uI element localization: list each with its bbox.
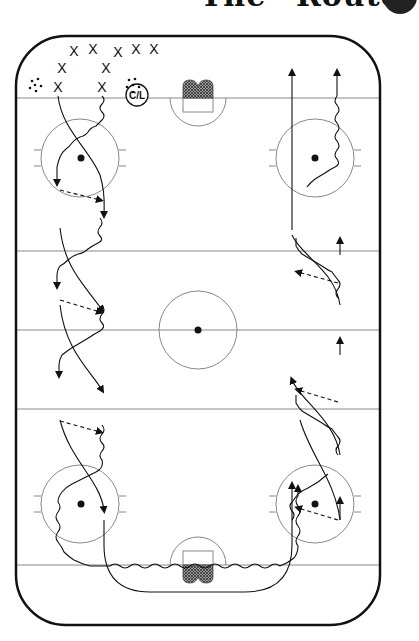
- puck-pile-icon: [29, 78, 43, 93]
- svg-text:X: X: [101, 60, 111, 76]
- svg-text:X: X: [131, 41, 141, 57]
- crease-box-top: [183, 98, 213, 112]
- faceoff-dots: [78, 155, 319, 508]
- svg-text:C/L: C/L: [129, 90, 145, 101]
- svg-text:X: X: [53, 79, 63, 95]
- svg-text:X: X: [149, 41, 159, 57]
- coach-marker: C/L: [126, 84, 148, 106]
- svg-text:X: X: [88, 41, 98, 57]
- svg-text:X: X: [97, 79, 107, 95]
- left-skating-paths: [56, 96, 300, 592]
- net-icon: [183, 80, 213, 98]
- svg-text:X: X: [57, 60, 67, 76]
- svg-text:X: X: [69, 43, 79, 59]
- crease-box-bottom: [183, 551, 213, 565]
- svg-text:X: X: [113, 44, 123, 60]
- right-skating-paths: [290, 72, 340, 520]
